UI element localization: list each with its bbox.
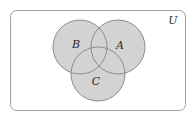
set-b-label: B [71,38,80,51]
universe-label: U [168,14,178,27]
set-c-label: C [92,75,101,88]
set-a-label: A [115,39,124,52]
venn-diagram: B A C U [0,0,196,120]
venn-svg: B A C U [0,0,196,120]
